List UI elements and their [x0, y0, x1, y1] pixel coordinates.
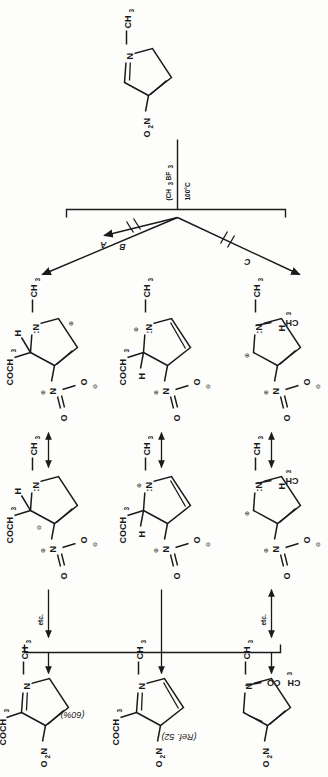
bracket-right: [66, 209, 285, 217]
productC-n-methyl-sub: 3: [246, 639, 253, 643]
A1-n-methyl: CH: [28, 284, 38, 297]
C2-n-methyl: CH: [251, 442, 261, 455]
B1-nitro-n: N: [160, 388, 170, 395]
sm-ring-nitrogen: N: [124, 53, 134, 60]
condition-reagent: BF: [164, 171, 171, 180]
B2-ring-n: :N: [143, 482, 153, 492]
sm-nitro-sub: 2: [146, 124, 153, 128]
C2-acetyl-sub: 3: [284, 469, 291, 473]
C1-h: H: [276, 325, 286, 332]
productA-nitro-o: O: [38, 760, 48, 767]
C2-acetyl: CH: [285, 475, 298, 485]
productB-acetyl-sub: 3: [115, 708, 122, 712]
A1-acetyl: COCH: [4, 359, 14, 386]
productC-acetyl-tail: CO: [267, 677, 281, 687]
C2-n-methyl-sub: 3: [256, 435, 263, 439]
B1-nitro-charge: ⊕: [152, 389, 158, 394]
B2-n-methyl: CH: [141, 442, 151, 455]
row-A-terminal: etc.: [36, 589, 48, 637]
productC-nitro-o: O: [260, 760, 270, 767]
branch-C: C: [177, 217, 299, 274]
B1-ring-n-charge: ⊕: [132, 326, 138, 331]
B2-acetyl-sub: 3: [122, 506, 129, 510]
B1-nitro-o1: O: [171, 414, 181, 421]
productA-nitro-n: N: [38, 748, 48, 755]
productC-acetyl-sub: 3: [285, 671, 292, 675]
condition-anhydride-sub1: 3: [166, 181, 173, 185]
reference-label: (Ref. 52): [161, 731, 196, 741]
C2-nitro-charge: ⊕: [262, 547, 268, 552]
branch-A-label: A: [100, 239, 107, 249]
B1-nitro-o2-charge: ⊖: [204, 383, 210, 388]
B1-h: H: [136, 373, 146, 380]
A1-n-methyl-sub: 3: [33, 277, 40, 281]
branch-fan: A B C: [42, 217, 299, 274]
intermediate-A1: :N CH 3 COCH 3 H N ⊕ O O ⊖ ⊕: [4, 277, 97, 421]
C2-h: H: [276, 483, 286, 490]
B2-nitro-o1: O: [171, 572, 181, 579]
productA-acetyl-sub: 3: [2, 708, 9, 712]
B2-acetyl: COCH: [117, 517, 127, 544]
condition-temperature: 100°C: [183, 182, 190, 200]
productA-acetyl: COCH: [0, 719, 7, 746]
productB-acetyl: COCH: [110, 719, 120, 746]
C1-nitro-o2-charge: ⊖: [314, 383, 320, 388]
condition-reagent-sub: 3: [166, 164, 173, 168]
B1-n-methyl-sub: 3: [146, 277, 153, 281]
B2-ring-charge: ⊕: [135, 482, 141, 487]
A1-nitro-o1: O: [58, 414, 68, 421]
A1-ring-charge: ⊕: [67, 320, 73, 325]
intermediate-C1: :N CH 3 ⊕ H CH 3 N ⊕ O O ⊖: [243, 277, 320, 421]
row-C-terminal: etc.: [259, 589, 271, 637]
intermediate-B2: :N CH 3 COCH 3 H N ⊕ O O ⊖ ⊕: [117, 435, 210, 579]
scheme-canvas: N CH 3 O 2 N BF 3 (CH 3 CO) 100°C: [0, 0, 328, 777]
C1-ring-charge: ⊕: [243, 352, 249, 357]
condition-anhydride-a: (CH: [164, 188, 172, 200]
C1-nitro-o1: O: [281, 414, 291, 421]
productB-n-methyl-sub: 3: [139, 639, 146, 643]
starting-material: N CH 3 O 2 N: [118, 8, 171, 137]
productA-ring-n: N: [21, 683, 31, 690]
intermediate-C2: :N CH 3 ⊕ H CH 3 N ⊕ O O ⊖: [243, 435, 320, 579]
A2-ring-n: :N: [30, 482, 40, 492]
B2-nitro-charge: ⊕: [152, 547, 158, 552]
A2-acetyl-sub: 3: [9, 506, 16, 510]
productB-nitro-sub: 2: [158, 754, 165, 758]
A1-nitro-o2-charge: ⊖: [91, 383, 97, 388]
productB-nitro-n: N: [153, 748, 163, 755]
product-A: N CH 3 COCH 3 O 2 N (60%): [0, 639, 84, 767]
A2-nitro-o2-charge: ⊖: [91, 541, 97, 546]
A2-n-methyl-sub: 3: [33, 435, 40, 439]
A1-ring-n: :N: [30, 324, 40, 334]
C2-nitro-o2: O: [301, 536, 311, 543]
productC-nitro-n: N: [260, 748, 270, 755]
reaction-scheme: N CH 3 O 2 N BF 3 (CH 3 CO) 100°C: [0, 0, 328, 777]
product-C: N CH 3 CH 3 CO O 2 N: [237, 639, 300, 767]
sm-nitro-n: N: [141, 118, 151, 125]
C1-nitro-charge: ⊕: [262, 389, 268, 394]
A1-h: H: [12, 330, 22, 337]
productC-acetyl: CH: [287, 677, 300, 687]
productA-n-methyl: CH: [19, 646, 29, 659]
B2-nitro-o2-charge: ⊖: [204, 541, 210, 546]
productA-nitro-sub: 2: [43, 754, 50, 758]
A2-h: H: [12, 488, 22, 495]
C2-ring-charge: ⊕: [243, 510, 249, 515]
productB-n-methyl: CH: [134, 646, 144, 659]
conditions-arrow: BF 3 (CH 3 CO) 100°C: [164, 139, 190, 209]
sm-nitro-o: O: [141, 130, 151, 137]
sm-n-methyl: CH: [122, 15, 132, 28]
A2-nitro-o1: O: [58, 572, 68, 579]
intermediate-A2: :N CH 3 COCH 3 H N ⊕ O O ⊖ ⊖: [4, 435, 97, 579]
productC-n-methyl: CH: [241, 646, 251, 659]
C2-nitro-o1: O: [281, 572, 291, 579]
B1-acetyl-sub: 3: [122, 348, 129, 352]
figure-page: N CH 3 O 2 N BF 3 (CH 3 CO) 100°C: [0, 0, 328, 777]
B1-n-methyl: CH: [141, 284, 151, 297]
sm-n-methyl-sub: 3: [127, 8, 134, 12]
B2-nitro-n: N: [160, 546, 170, 553]
productA-n-methyl-sub: 3: [24, 639, 31, 643]
C2-nitro-n: N: [270, 546, 280, 553]
B2-h: H: [136, 531, 146, 538]
productC-nitro-sub: 2: [265, 754, 272, 758]
